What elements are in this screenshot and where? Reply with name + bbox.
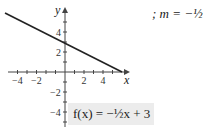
x-tick-label: −4 — [12, 75, 23, 86]
x-tick-label: −2 — [31, 75, 42, 86]
x-tick-label: 2 — [82, 75, 87, 86]
y-tick-label: −4 — [50, 107, 61, 118]
y-axis-label: y — [54, 3, 61, 17]
x-tick-label: 4 — [101, 75, 106, 86]
y-axis-arrow — [62, 7, 68, 13]
x-axis-label: x — [123, 73, 130, 87]
y-tick-label: −2 — [50, 87, 61, 98]
function-formula: f(x) = −½x + 3 — [73, 106, 150, 122]
slope-annotation: ; m = −½ — [152, 6, 203, 22]
y-tick-label: 2 — [56, 47, 61, 58]
y-tick-label: 4 — [56, 27, 61, 38]
